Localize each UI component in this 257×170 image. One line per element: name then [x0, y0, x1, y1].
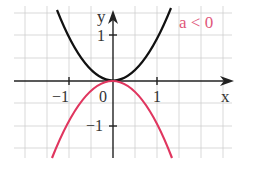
y-axis-label: y	[97, 8, 106, 25]
y-tick-label-neg1: −1	[86, 118, 103, 134]
parabola-chart	[0, 0, 257, 170]
x-axis-label: x	[221, 88, 230, 105]
axes	[14, 16, 226, 158]
y-tick-label-pos1: 1	[97, 28, 105, 44]
origin-label: 0	[99, 89, 107, 105]
annotation-label: a < 0	[179, 14, 213, 31]
x-tick-label-neg1: −1	[52, 89, 69, 105]
x-tick-label-pos1: 1	[153, 89, 161, 105]
